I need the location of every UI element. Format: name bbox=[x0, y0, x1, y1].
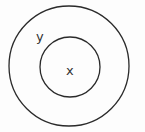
inner-label: x bbox=[66, 63, 74, 78]
venn-diagram: y x bbox=[0, 0, 145, 132]
outer-label: y bbox=[36, 29, 44, 44]
